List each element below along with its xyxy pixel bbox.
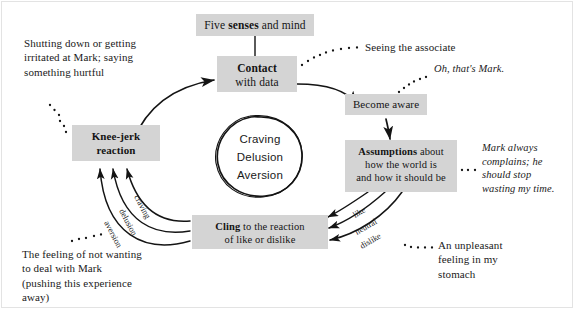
note-feeling-not-wanting: The feeling of not wanting to deal with … <box>22 247 142 304</box>
box-assumptions[interactable]: Assumptions about how the world is and h… <box>345 140 457 192</box>
box-knee-jerk-reaction[interactable]: Knee-jerk reaction <box>72 125 160 161</box>
note-seeing-associate: Seeing the associate <box>365 40 535 54</box>
cling-bold: Cling <box>215 221 240 232</box>
note-mark-always-complains: Mark always complains; he should stop wa… <box>482 141 564 196</box>
five-senses-lead: Five <box>204 19 228 31</box>
box-cling[interactable]: Cling to the reaction of like or dislike <box>192 215 328 249</box>
knee-jerk-line1: Knee-jerk <box>92 130 141 142</box>
cling-line2: of like or dislike <box>225 234 296 245</box>
box-become-aware[interactable]: Become aware <box>345 94 427 115</box>
assumptions-line3: and how it should be <box>356 172 446 183</box>
five-senses-tail: and mind <box>259 19 306 31</box>
five-senses-bold: senses <box>228 19 259 31</box>
assumptions-bold: Assumptions <box>358 146 417 157</box>
assumptions-line2: how the world is <box>365 159 437 170</box>
circle-item-craving: Craving <box>218 131 302 149</box>
circle-item-aversion: Aversion <box>218 167 302 185</box>
circle-text: Craving Delusion Aversion <box>218 131 302 184</box>
assumptions-tail: about <box>417 146 444 157</box>
box-contact[interactable]: Contact with data <box>217 56 297 92</box>
cling-tail: to the reaction <box>240 221 304 232</box>
note-oh-thats-mark: Oh, that's Mark. <box>434 62 564 76</box>
become-aware-label: Become aware <box>353 98 419 110</box>
box-five-senses[interactable]: Five senses and mind <box>196 14 314 36</box>
contact-bold: Contact <box>237 62 277 74</box>
circle-item-delusion: Delusion <box>218 149 302 167</box>
note-shutting-down: Shutting down or getting irritated at Ma… <box>24 36 144 79</box>
note-unpleasant-feeling: An unpleasant feeling in my stomach <box>438 238 536 281</box>
contact-line2: with data <box>235 76 278 88</box>
diagram-canvas: Five senses and mind Contact with data B… <box>0 0 574 309</box>
knee-jerk-line2: reaction <box>96 144 135 156</box>
